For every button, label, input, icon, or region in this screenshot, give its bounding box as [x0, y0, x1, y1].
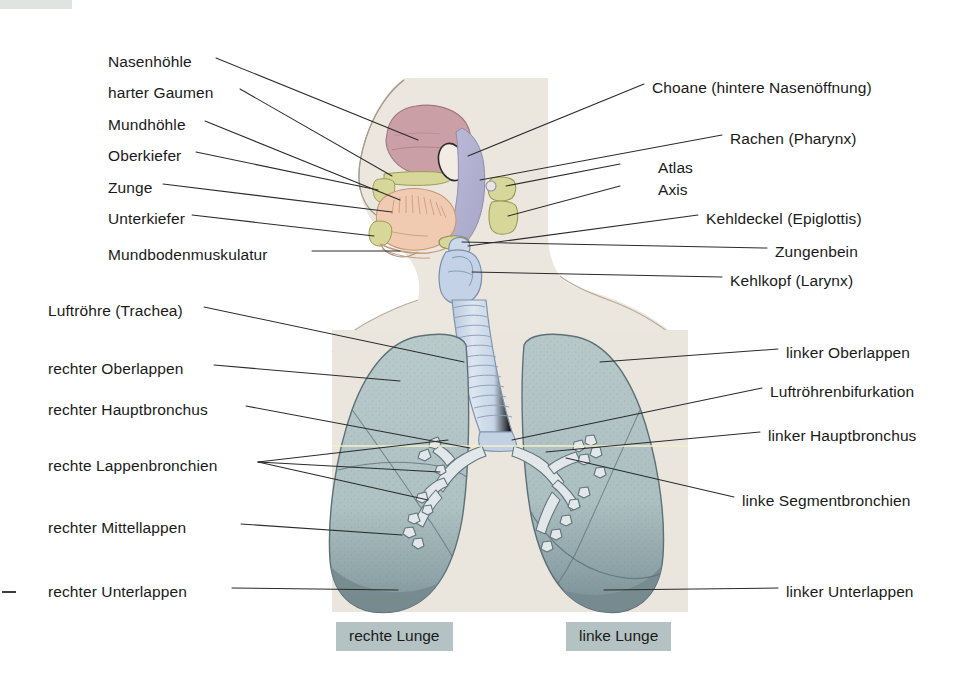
anatomy-figure: Nasenhöhle harter Gaumen Mundhöhle Oberk…	[0, 0, 977, 688]
label-rachen-pharynx: Rachen (Pharynx)	[730, 131, 857, 147]
scan-artifact-dash	[2, 591, 16, 593]
label-zungenbein: Zungenbein	[775, 244, 858, 260]
caption-rechte-lunge: rechte Lunge	[336, 622, 453, 651]
label-nasenhoehle: Nasenhöhle	[108, 54, 192, 70]
label-choane: Choane (hintere Nasenöffnung)	[652, 80, 872, 96]
label-luftroehrenbifurkation: Luftröhrenbifurkation	[770, 384, 914, 400]
label-rechter-unterlappen: rechter Unterlappen	[48, 584, 187, 600]
caption-linke-lunge: linke Lunge	[566, 622, 671, 651]
label-kehlkopf-larynx: Kehlkopf (Larynx)	[730, 273, 853, 289]
label-atlas: Atlas	[658, 160, 693, 176]
label-mundbodenmuskulatur: Mundbodenmuskulatur	[108, 247, 268, 263]
label-linker-hauptbronchus: linker Hauptbronchus	[768, 428, 916, 444]
scan-artifact-bar	[0, 0, 72, 9]
label-rechte-lappenbronchien: rechte Lappenbronchien	[48, 458, 217, 474]
label-zunge: Zunge	[108, 180, 152, 196]
label-rechter-oberlappen: rechter Oberlappen	[48, 361, 183, 377]
label-linker-unterlappen: linker Unterlappen	[786, 584, 914, 600]
label-unterkiefer: Unterkiefer	[108, 211, 185, 227]
label-oberkiefer: Oberkiefer	[108, 148, 181, 164]
label-linker-oberlappen: linker Oberlappen	[786, 345, 910, 361]
label-harter-gaumen: harter Gaumen	[108, 85, 214, 101]
label-kehldeckel-epiglottis: Kehldeckel (Epiglottis)	[706, 211, 862, 227]
label-rechter-mittellappen: rechter Mittellappen	[48, 520, 186, 536]
label-linke-segmentbronchien: linke Segmentbronchien	[742, 493, 911, 509]
label-mundhoehle: Mundhöhle	[108, 117, 186, 133]
label-rechter-hauptbronchus: rechter Hauptbronchus	[48, 402, 208, 418]
label-luftroehre-trachea: Luftröhre (Trachea)	[48, 303, 183, 319]
label-axis: Axis	[658, 182, 688, 198]
